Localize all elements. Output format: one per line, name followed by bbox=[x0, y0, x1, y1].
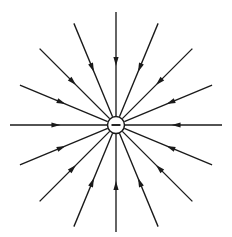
electric-field-diagram bbox=[0, 0, 232, 237]
figure-root: − Electric field lines of a negative poi… bbox=[0, 0, 232, 237]
point-charge bbox=[108, 117, 125, 134]
